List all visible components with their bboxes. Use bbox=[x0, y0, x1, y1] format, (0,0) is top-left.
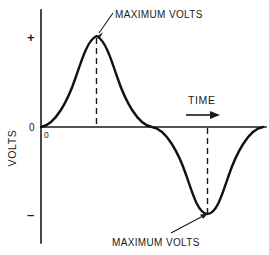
top-callout-arrowhead bbox=[97, 32, 104, 37]
bottom-callout-label: MAXIMUM VOLTS bbox=[112, 237, 200, 248]
y-zero-tick-label: 0 bbox=[29, 122, 35, 133]
y-negative-tick-label: – bbox=[27, 207, 35, 222]
time-axis-label: TIME bbox=[188, 94, 215, 106]
sine-wave-diagram: MAXIMUM VOLTS MAXIMUM VOLTS TIME VOLTS +… bbox=[0, 0, 269, 255]
top-callout-leader bbox=[99, 13, 113, 33]
y-positive-tick-label: + bbox=[27, 30, 35, 45]
volts-axis-label: VOLTS bbox=[6, 129, 18, 166]
diagram-canvas: MAXIMUM VOLTS MAXIMUM VOLTS TIME VOLTS +… bbox=[0, 0, 269, 255]
bottom-callout-leader bbox=[171, 216, 203, 233]
time-direction-arrow-head bbox=[210, 111, 220, 119]
origin-label: 0 bbox=[44, 130, 49, 140]
sine-wave-curve bbox=[41, 36, 263, 214]
bottom-callout-arrowhead bbox=[200, 214, 208, 219]
top-callout-label: MAXIMUM VOLTS bbox=[115, 9, 203, 20]
